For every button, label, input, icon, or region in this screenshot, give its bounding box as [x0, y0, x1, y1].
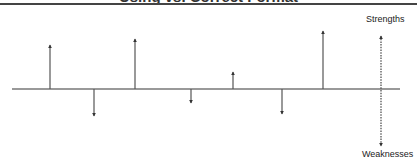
arrowhead-icon [280, 111, 284, 115]
strengths-label: Strengths [366, 14, 405, 24]
arrowhead-icon [321, 31, 325, 35]
arrowhead-icon [231, 72, 235, 76]
arrowhead-icon [92, 113, 96, 117]
weaknesses-label: Weaknesses [362, 149, 413, 159]
arrowhead-icon [189, 100, 193, 104]
arrowhead-icon [133, 39, 137, 43]
arrowhead-up-icon [379, 36, 383, 40]
arrowhead-icon [48, 45, 52, 49]
arrowhead-down-icon [379, 143, 383, 147]
stem-diagram [0, 0, 417, 166]
